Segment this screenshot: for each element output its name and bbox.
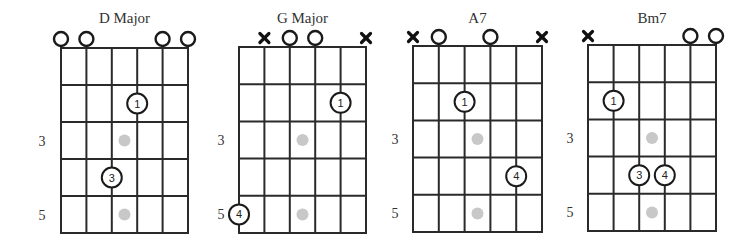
muted-string-icon — [260, 34, 269, 43]
finger-number: 1 — [611, 95, 617, 107]
fret-number-label: 3 — [39, 134, 46, 149]
chord-diagram-a7: A73514 — [392, 10, 547, 232]
fret-number-label: 3 — [218, 133, 225, 148]
chord-title: D Major — [99, 10, 150, 26]
fret-number-label: 5 — [567, 205, 574, 220]
chord-title: A7 — [468, 10, 487, 26]
finger-number: 1 — [338, 97, 344, 109]
finger-number: 4 — [513, 170, 519, 182]
open-string-icon — [79, 32, 93, 46]
fret-inlay-dot — [297, 208, 309, 220]
finger-position: 3 — [102, 168, 122, 188]
chord-title: Bm7 — [637, 10, 667, 26]
chord-diagram-g-major: G Major3514 — [218, 10, 371, 233]
finger-number: 3 — [109, 172, 115, 184]
open-string-icon — [709, 29, 723, 43]
chord-diagrams: D Major3513G Major3514A73514Bm735134 — [0, 0, 742, 247]
finger-number: 1 — [462, 96, 468, 108]
finger-position: 1 — [331, 93, 351, 113]
open-string-icon — [181, 32, 195, 46]
open-string-icon — [683, 29, 697, 43]
finger-number: 1 — [134, 98, 140, 110]
muted-string-icon — [584, 32, 593, 41]
finger-number: 3 — [636, 169, 642, 181]
finger-position: 4 — [229, 204, 249, 224]
muted-string-icon — [409, 33, 418, 42]
fret-inlay-dot — [297, 134, 309, 146]
chord-title: G Major — [277, 10, 328, 26]
open-string-icon — [54, 32, 68, 46]
fret-inlay-dot — [119, 135, 131, 147]
finger-position: 4 — [655, 165, 675, 185]
fret-number-label: 5 — [218, 207, 225, 222]
chord-diagram-bm7: Bm735134 — [567, 10, 724, 231]
fret-inlay-dot — [472, 133, 484, 145]
fret-number-label: 5 — [392, 206, 399, 221]
finger-position: 3 — [629, 165, 649, 185]
open-string-icon — [308, 31, 322, 45]
finger-number: 4 — [662, 169, 668, 181]
finger-position: 4 — [506, 166, 526, 186]
chord-diagram-d-major: D Major3513 — [39, 10, 196, 233]
finger-position: 1 — [127, 94, 147, 114]
fret-number-label: 3 — [567, 131, 574, 146]
fret-inlay-dot — [119, 209, 131, 221]
fret-inlay-dot — [646, 206, 658, 218]
open-string-icon — [483, 30, 497, 44]
muted-string-icon — [362, 34, 371, 43]
open-string-icon — [156, 32, 170, 46]
fret-inlay-dot — [472, 207, 484, 219]
muted-string-icon — [538, 33, 547, 42]
fret-number-label: 5 — [39, 208, 46, 223]
finger-position: 1 — [455, 92, 475, 112]
finger-number: 4 — [236, 208, 242, 220]
open-string-icon — [432, 30, 446, 44]
finger-position: 1 — [604, 91, 624, 111]
fret-inlay-dot — [646, 132, 658, 144]
open-string-icon — [283, 31, 297, 45]
fret-number-label: 3 — [392, 132, 399, 147]
